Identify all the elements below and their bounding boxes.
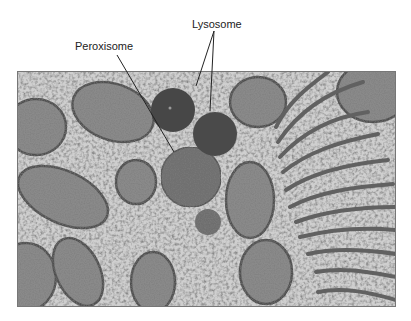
mitochondrion: [18, 99, 66, 155]
micrograph-image: [18, 72, 396, 307]
peroxisome: [161, 147, 221, 207]
lysosome: [151, 88, 195, 132]
lysosome-label: Lysosome: [192, 18, 242, 30]
micrograph: [17, 71, 396, 307]
small-vesicle: [195, 209, 221, 235]
lysosome-core: [169, 107, 172, 110]
lysosome: [193, 112, 237, 156]
mitochondrion: [230, 77, 286, 127]
peroxisome-label: Peroxisome: [75, 40, 133, 52]
mitochondrion: [226, 162, 274, 238]
mitochondrion: [240, 240, 292, 304]
mitochondrion: [131, 252, 175, 307]
mitochondrion: [116, 160, 156, 204]
